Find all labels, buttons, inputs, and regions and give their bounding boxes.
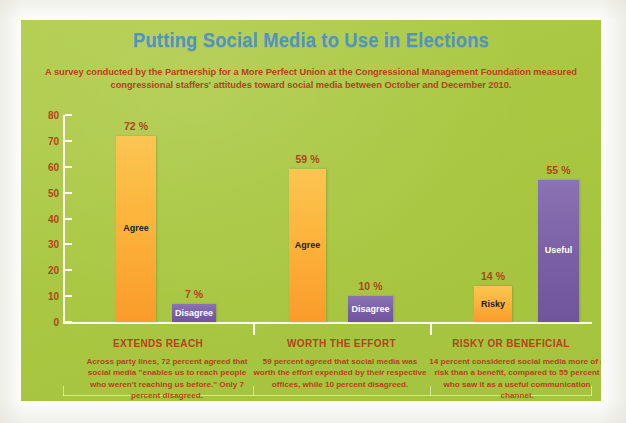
y-axis-tick-label: 40 xyxy=(35,213,59,224)
category-label-2: WORTH THE EFFORT xyxy=(253,338,430,349)
bar-value-label: 55 % xyxy=(526,164,591,176)
group-divider xyxy=(253,324,255,335)
y-axis-tick-mark xyxy=(65,114,72,116)
y-axis-tick-mark xyxy=(65,140,72,142)
plot-area: 0102030405060708072 %Agree7 %Disagree59 … xyxy=(21,20,601,401)
y-axis-tick-mark xyxy=(65,295,72,297)
infographic-chart: Putting Social Media to Use in Elections… xyxy=(0,0,626,423)
y-axis-tick-label: 80 xyxy=(35,110,59,121)
group-divider xyxy=(430,324,432,335)
y-axis-line xyxy=(63,115,65,324)
y-axis-tick-label: 0 xyxy=(35,317,59,328)
y-axis-tick-mark xyxy=(65,166,72,168)
category-caption-1: Across party lines, 72 percent agreed th… xyxy=(79,356,255,401)
bar-value-label: 7 % xyxy=(160,288,228,300)
footer-tick xyxy=(591,386,592,396)
bar-value-label: 14 % xyxy=(462,270,524,282)
bar-value-label: 59 % xyxy=(277,153,338,165)
chart-panel: Putting Social Media to Use in Elections… xyxy=(21,20,601,401)
y-axis-tick-mark xyxy=(65,321,72,323)
category-label-3: RISKY OR BENEFICIAL xyxy=(430,338,592,349)
y-axis-tick-label: 60 xyxy=(35,161,59,172)
footer-tick xyxy=(430,386,431,396)
y-axis-tick-label: 30 xyxy=(35,239,59,250)
y-axis-tick-label: 10 xyxy=(35,291,59,302)
bar-value-label: 72 % xyxy=(104,120,168,132)
y-axis-tick-mark xyxy=(65,269,72,271)
y-axis-tick-mark xyxy=(65,218,72,220)
category-caption-3: 14 percent considered social media more … xyxy=(429,356,601,401)
footer-tick xyxy=(63,386,64,396)
category-label-1: EXTENDS REACH xyxy=(63,338,253,349)
bar-series-label: Disagree xyxy=(348,304,393,314)
x-axis-line xyxy=(63,322,592,324)
y-axis-tick-label: 20 xyxy=(35,265,59,276)
y-axis-tick-label: 70 xyxy=(35,135,59,146)
bar-series-label: Risky xyxy=(474,299,512,309)
y-axis-tick-mark xyxy=(65,243,72,245)
footer-tick xyxy=(253,386,254,396)
y-axis-tick-mark xyxy=(65,192,72,194)
y-axis-tick-label: 50 xyxy=(35,187,59,198)
bar-series-label: Agree xyxy=(289,240,326,250)
bar-series-label: Disagree xyxy=(172,308,216,318)
bar-value-label: 10 % xyxy=(336,280,405,292)
category-caption-2: 59 percent agreed that social media was … xyxy=(252,356,428,390)
bar-series-label: Useful xyxy=(538,245,579,255)
bar-series-label: Agree xyxy=(116,223,156,233)
